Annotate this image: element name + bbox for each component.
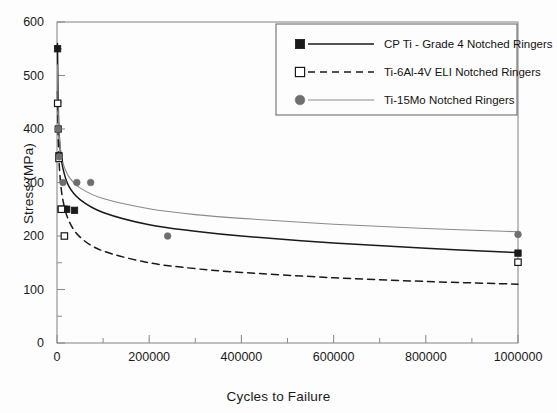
x-tick-label: 600000 (313, 350, 355, 364)
x-tick-label: 800000 (405, 350, 447, 364)
y-tick-label: 200 (0, 229, 44, 243)
y-tick-label: 300 (0, 176, 44, 190)
data-point-series-3 (515, 231, 522, 238)
data-point-series-1 (515, 250, 521, 256)
data-point-series-3 (73, 179, 80, 186)
x-tick-label: 400000 (221, 350, 263, 364)
plot-area (0, 0, 557, 413)
x-tick-label: 0 (54, 350, 61, 364)
legend-entry-label-2: Ti-6Al-4V ELI Notched Ringers (384, 66, 541, 78)
series-curve-2 (57, 92, 518, 285)
legend-marker-3 (295, 95, 305, 105)
y-tick-label: 0 (0, 336, 44, 350)
chart-figure: Cycles to Failure Stress (MPa) 010020030… (0, 0, 557, 413)
data-point-series-3 (56, 153, 63, 160)
y-tick-label: 500 (0, 69, 44, 83)
y-tick-label: 400 (0, 122, 44, 136)
data-point-series-3 (60, 179, 67, 186)
data-point-series-1 (54, 46, 60, 52)
data-point-series-1 (71, 207, 77, 213)
y-tick-label: 100 (0, 283, 44, 297)
x-tick-label: 200000 (128, 350, 170, 364)
data-point-series-2 (61, 233, 67, 239)
x-tick-label: 1000000 (494, 350, 543, 364)
legend-marker-2 (295, 67, 304, 76)
y-tick-label: 600 (0, 15, 44, 29)
data-point-series-2 (54, 100, 60, 106)
legend-marker-1 (295, 39, 304, 48)
data-point-series-2 (515, 259, 521, 265)
data-point-series-3 (87, 179, 94, 186)
data-point-series-3 (164, 233, 171, 240)
data-point-series-3 (55, 126, 62, 133)
x-axis-title: Cycles to Failure (0, 389, 557, 404)
data-point-series-2 (58, 206, 64, 212)
legend-entry-label-1: CP Ti - Grade 4 Notched Ringers (384, 38, 553, 50)
legend-entry-label-3: Ti-15Mo Notched Ringers (384, 94, 515, 106)
